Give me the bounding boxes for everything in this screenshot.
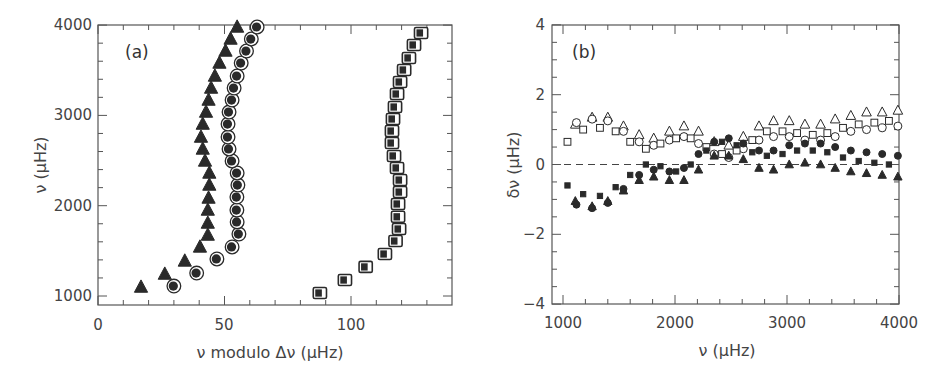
filled-triangle-marker bbox=[231, 20, 244, 32]
filled-triangle-marker bbox=[571, 197, 579, 205]
filled-triangle-marker bbox=[193, 240, 206, 252]
panel-a-points bbox=[134, 20, 427, 299]
filled-square-marker bbox=[794, 148, 799, 153]
filled-square-marker bbox=[780, 151, 785, 156]
filled-triangle-marker bbox=[134, 280, 147, 292]
open-square-marker bbox=[719, 151, 726, 158]
open-square-marker bbox=[564, 138, 571, 145]
filled-square-marker bbox=[613, 185, 618, 190]
open-circle-marker bbox=[665, 136, 673, 144]
filled-triangle-marker bbox=[862, 169, 870, 177]
open-triangle-marker bbox=[830, 114, 840, 123]
ringed-square-core bbox=[395, 188, 402, 195]
open-circle-marker bbox=[785, 133, 793, 141]
open-square-marker bbox=[657, 140, 664, 147]
ringed-square-core bbox=[394, 225, 401, 232]
filled-square-marker bbox=[856, 158, 861, 163]
open-square-marker bbox=[627, 138, 634, 145]
filled-circle-marker bbox=[879, 151, 886, 158]
ringed-square-core bbox=[395, 176, 402, 183]
panel-a-ytick-4000: 4000 bbox=[54, 16, 92, 34]
filled-circle-marker bbox=[770, 147, 777, 154]
panel-b-ytick-0: 0 bbox=[535, 156, 545, 174]
open-square-marker bbox=[580, 126, 587, 133]
open-circle-marker bbox=[755, 136, 763, 144]
ringed-square-core bbox=[393, 213, 400, 220]
ringed-circle-core bbox=[246, 34, 255, 43]
ringed-circle-core bbox=[234, 229, 243, 238]
ringed-square-core bbox=[404, 54, 411, 61]
filled-square-marker bbox=[565, 183, 570, 188]
open-triangle-marker bbox=[816, 119, 826, 128]
filled-square-marker bbox=[658, 164, 663, 169]
ringed-circle-core bbox=[169, 281, 178, 290]
panel-a-ytick-3000: 3000 bbox=[54, 106, 92, 124]
filled-triangle-marker bbox=[739, 155, 747, 163]
ringed-circle-core bbox=[223, 132, 232, 141]
ringed-circle-core bbox=[232, 71, 241, 80]
open-circle-marker bbox=[572, 119, 580, 127]
filled-circle-marker bbox=[740, 140, 747, 147]
filled-circle-marker bbox=[680, 164, 687, 171]
filled-square-marker bbox=[628, 172, 633, 177]
filled-square-marker bbox=[872, 160, 877, 165]
filled-triangle-marker bbox=[199, 105, 212, 117]
filled-triangle-marker bbox=[665, 176, 673, 184]
ringed-circle-core bbox=[191, 268, 200, 277]
filled-circle-marker bbox=[847, 147, 854, 154]
filled-triangle-marker bbox=[203, 178, 216, 190]
filled-triangle-marker bbox=[224, 32, 237, 44]
filled-square-marker bbox=[719, 139, 724, 144]
ringed-circle-core bbox=[236, 58, 245, 67]
panel-b-ylabel: δν (μHz) bbox=[504, 132, 523, 199]
open-circle-marker bbox=[894, 122, 902, 130]
filled-triangle-marker bbox=[201, 216, 214, 228]
filled-circle-marker bbox=[832, 144, 839, 151]
filled-circle-marker bbox=[817, 140, 824, 147]
open-triangle-marker bbox=[846, 110, 856, 119]
open-circle-marker bbox=[588, 115, 596, 123]
panel-a-ylabel: ν (μHz) bbox=[31, 136, 50, 193]
filled-circle-marker bbox=[894, 152, 901, 159]
open-triangle-marker bbox=[800, 119, 810, 128]
panel-b-xtick-1000: 1000 bbox=[544, 314, 582, 332]
open-triangle-marker bbox=[665, 126, 675, 135]
ringed-square-core bbox=[361, 263, 368, 270]
filled-triangle-marker bbox=[178, 254, 191, 266]
panel-b-points bbox=[564, 105, 903, 211]
ringed-square-core bbox=[389, 152, 396, 159]
filled-triangle-marker bbox=[894, 172, 902, 180]
filled-triangle-marker bbox=[769, 165, 777, 173]
filled-triangle-marker bbox=[196, 142, 209, 154]
filled-triangle-marker bbox=[816, 160, 824, 168]
filled-triangle-marker bbox=[785, 160, 793, 168]
ringed-square-core bbox=[392, 164, 399, 171]
open-square-marker bbox=[809, 131, 816, 138]
ringed-square-core bbox=[393, 200, 400, 207]
open-square-marker bbox=[597, 124, 604, 131]
open-triangle-marker bbox=[862, 107, 872, 116]
panel-a-xtick-100: 100 bbox=[337, 316, 366, 334]
ringed-circle-core bbox=[252, 22, 261, 31]
ringed-circle-core bbox=[233, 180, 242, 189]
ringed-circle-core bbox=[227, 156, 236, 165]
ringed-circle-core bbox=[212, 254, 221, 263]
open-triangle-marker bbox=[877, 107, 887, 116]
filled-square-marker bbox=[750, 150, 755, 155]
filled-square-marker bbox=[581, 192, 586, 197]
open-square-marker bbox=[855, 121, 862, 128]
filled-triangle-marker bbox=[158, 267, 171, 279]
filled-circle-marker bbox=[756, 147, 763, 154]
open-square-marker bbox=[824, 130, 831, 137]
open-square-marker bbox=[673, 135, 680, 142]
open-triangle-marker bbox=[769, 116, 779, 125]
open-triangle-marker bbox=[754, 121, 764, 130]
panel-a-ytick-2000: 2000 bbox=[54, 197, 92, 215]
filled-triangle-marker bbox=[801, 158, 809, 166]
panel-b-ytick-2: 2 bbox=[535, 86, 545, 104]
open-square-marker bbox=[749, 137, 756, 144]
open-square-marker bbox=[763, 128, 770, 135]
filled-square-marker bbox=[643, 162, 648, 167]
ringed-circle-core bbox=[224, 144, 233, 153]
open-circle-marker bbox=[680, 133, 688, 141]
